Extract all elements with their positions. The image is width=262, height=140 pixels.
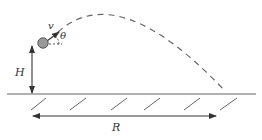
hatch-mark xyxy=(184,98,200,110)
velocity-label: v xyxy=(48,20,54,31)
velocity-arrow xyxy=(47,32,59,41)
projectile-ball xyxy=(38,38,48,48)
trajectory-path xyxy=(58,14,224,90)
hatch-mark xyxy=(144,98,160,110)
hatch-mark xyxy=(111,98,127,110)
ground-hatching xyxy=(31,98,237,110)
angle-label: θ xyxy=(60,30,66,41)
projectile-diagram: v θ H R xyxy=(0,0,262,140)
hatch-mark xyxy=(70,98,86,110)
hatch-mark xyxy=(31,98,46,110)
angle-arc xyxy=(56,37,59,44)
height-label: H xyxy=(14,66,25,79)
range-label: R xyxy=(111,121,120,134)
hatch-mark xyxy=(220,98,237,110)
